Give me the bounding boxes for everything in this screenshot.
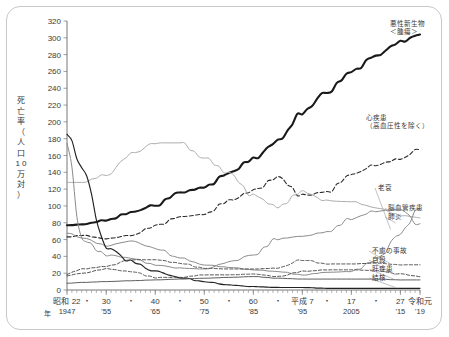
y-tick-label: 60	[52, 236, 61, 245]
x-dot-mark: ・	[225, 297, 233, 306]
series-label: 自殺	[372, 255, 386, 264]
series-line	[67, 277, 420, 284]
x-dot-mark: ・	[176, 297, 184, 306]
series-label: 不慮の事故	[372, 246, 407, 255]
x-era-label: 令和元	[408, 296, 432, 306]
series-label: 肺炎	[388, 213, 402, 221]
y-tick-label: 20	[52, 269, 61, 278]
x-western-label: '55	[101, 307, 111, 316]
x-western-label: '15	[395, 307, 405, 316]
series-label: ＜腫瘍＞	[390, 27, 418, 36]
x-tick-group	[67, 290, 420, 295]
x-era-label: 60	[249, 297, 258, 306]
series-label: 老衰	[378, 183, 392, 192]
y-tick-label: 0	[57, 286, 62, 295]
series-line	[67, 260, 420, 275]
y-tick-label: 180	[48, 135, 62, 144]
x-label-group: 昭和 22194730'5540'6550'7560'85平成 7'951720…	[53, 296, 432, 316]
x-era-label: 50	[200, 297, 209, 306]
x-western-label: '19	[415, 307, 425, 316]
y-tick-label: 280	[48, 51, 62, 60]
y-tick-label: 260	[48, 67, 62, 76]
x-western-label: '95	[297, 307, 307, 316]
x-western-label: 1947	[59, 307, 76, 316]
x-era-label: 昭和 22	[53, 297, 81, 306]
series-line	[67, 142, 420, 217]
x-dot-mark: ・	[127, 297, 135, 306]
y-tick-label: 320	[48, 17, 62, 26]
x-era-label: 40	[151, 297, 160, 306]
x-era-label: 30	[102, 297, 111, 306]
y-tick-label: 200	[48, 118, 62, 127]
series-group	[67, 35, 420, 289]
y-tick-label: 100	[48, 202, 62, 211]
y-tick-label: 240	[48, 84, 62, 93]
x-era-label: 17	[347, 297, 356, 306]
series-label: 結核	[372, 273, 386, 282]
series-line	[67, 35, 420, 226]
x-dot-mark: ・	[274, 297, 282, 306]
y-tick-group: 0204060801001201401601802002202402602803…	[48, 17, 67, 295]
series-label: 悪性新生物	[390, 19, 425, 28]
series-line	[67, 134, 420, 288]
series-label: 肝疾患	[372, 264, 393, 273]
series-label-group: 悪性新生物＜腫瘍＞心疾患（高血圧性を除く）老衰脳血管疾患肺炎不慮の事故自殺肝疾患…	[366, 19, 429, 282]
leader-group	[369, 188, 396, 288]
y-tick-label: 40	[52, 252, 61, 261]
series-label: 心疾患	[366, 113, 387, 122]
y-tick-label: 80	[52, 219, 61, 228]
y-tick-label: 120	[48, 185, 62, 194]
y-tick-label: 160	[48, 152, 62, 161]
y-tick-label: 300	[48, 34, 62, 43]
x-dot-mark: ・	[372, 297, 380, 306]
x-dot-mark: ・	[323, 297, 331, 306]
x-western-label: 2005	[343, 307, 360, 316]
x-dot-mark: ・	[83, 297, 91, 306]
x-western-label: '85	[248, 307, 258, 316]
x-western-label: '75	[199, 307, 209, 316]
series-label: （高血圧性を除く）	[366, 121, 429, 130]
series-label: 脳血管疾患	[388, 203, 423, 212]
x-era-label: 27	[396, 297, 405, 306]
chart-stage: 0204060801001201401601802002202402602803…	[0, 0, 449, 337]
x-axis-unit-label: 年	[44, 309, 51, 318]
series-line	[67, 208, 420, 275]
y-tick-label: 140	[48, 168, 62, 177]
x-western-label: '65	[150, 307, 160, 316]
y-tick-label: 220	[48, 101, 62, 110]
x-era-label: 平成 7	[291, 296, 314, 306]
